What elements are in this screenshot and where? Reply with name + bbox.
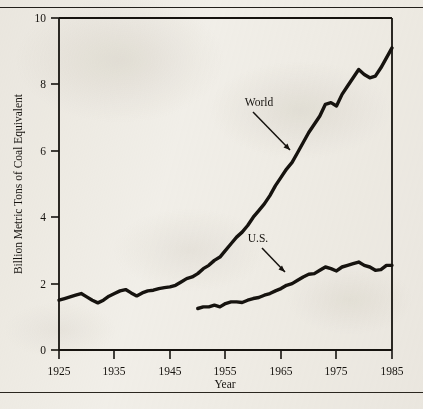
x-tick-label-1935: 1935 [103, 365, 126, 377]
series-label-world: World [245, 96, 274, 108]
y-axis-tick-labels: 10 8 6 4 2 0 [35, 12, 47, 356]
x-tick-label-1975: 1975 [325, 365, 348, 377]
y-tick-label-2: 2 [40, 278, 46, 290]
series-line-us [198, 262, 392, 308]
x-tick-label-1965: 1965 [270, 365, 293, 377]
y-tick-label-6: 6 [40, 145, 46, 157]
series-line-world [59, 48, 392, 303]
y-axis-title: Billion Metric Tons of Coal Equivalent [12, 93, 25, 274]
y-tick-label-4: 4 [40, 211, 46, 223]
plot-frame [59, 18, 392, 350]
annotation-arrow-world [253, 112, 290, 150]
annotation-arrow-us [262, 248, 285, 272]
x-tick-label-1985: 1985 [381, 365, 404, 377]
x-axis-tick-labels: 1925 1935 1945 1955 1965 1975 1985 [48, 365, 404, 377]
x-tick-label-1955: 1955 [214, 365, 237, 377]
x-tick-label-1925: 1925 [48, 365, 71, 377]
x-tick-label-1945: 1945 [159, 365, 182, 377]
y-tick-label-0: 0 [40, 344, 46, 356]
x-axis-ticks [59, 350, 392, 359]
line-chart: 10 8 6 4 2 0 Billion Metric Tons of Coal… [0, 0, 423, 409]
chart-canvas: 10 8 6 4 2 0 Billion Metric Tons of Coal… [0, 0, 423, 409]
x-axis-title: Year [214, 378, 235, 390]
y-tick-label-10: 10 [35, 12, 47, 24]
y-tick-label-8: 8 [40, 78, 46, 90]
series-label-us: U.S. [248, 232, 269, 244]
